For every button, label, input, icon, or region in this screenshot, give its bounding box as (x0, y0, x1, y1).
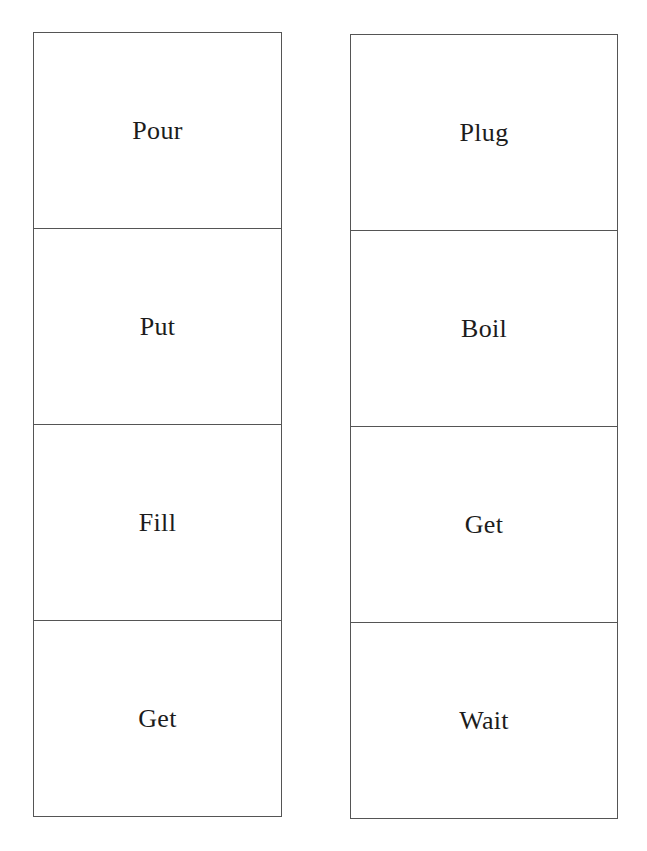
card-word: Get (138, 704, 176, 734)
word-card: Boil (351, 231, 617, 427)
right-card-column: Plug Boil Get Wait (350, 34, 618, 819)
word-card: Wait (351, 623, 617, 818)
card-word: Fill (139, 508, 176, 538)
left-card-column: Pour Put Fill Get (33, 32, 282, 817)
word-card: Pour (34, 33, 281, 229)
word-card: Fill (34, 425, 281, 621)
card-word: Put (140, 312, 176, 342)
card-word: Plug (460, 118, 509, 148)
word-card: Put (34, 229, 281, 425)
card-word: Wait (459, 706, 509, 736)
word-card: Get (34, 621, 281, 816)
card-word: Get (465, 510, 503, 540)
card-word: Pour (132, 116, 182, 146)
word-card: Plug (351, 35, 617, 231)
card-word: Boil (461, 314, 507, 344)
word-card: Get (351, 427, 617, 623)
